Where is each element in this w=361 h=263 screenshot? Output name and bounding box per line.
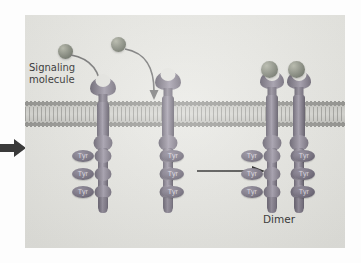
signaling-molecule-label: Signaling molecule — [29, 62, 75, 86]
tyr-residue: Tyr — [162, 168, 184, 180]
tyr-residue: Tyr — [293, 150, 315, 162]
dimer-label: Dimer — [263, 213, 295, 225]
figure-canvas: Tyr Tyr Tyr Tyr Tyr Tyr — [0, 0, 361, 263]
signaling-molecule-label-line2: molecule — [29, 74, 75, 86]
receptor-4-c-terminal-tail — [295, 197, 304, 213]
tyr-residue: Tyr — [293, 186, 315, 198]
receptor-1-c-terminal-tail — [99, 197, 108, 213]
tyr-residue: Tyr — [162, 186, 184, 198]
receptor-1-transmembrane-domain — [97, 102, 109, 138]
receptor-4-transmembrane-domain — [293, 95, 305, 138]
tyr-residue: Tyr — [72, 168, 94, 180]
tyr-residue: Tyr — [241, 186, 263, 198]
receptor-1-lobe-2 — [95, 167, 112, 181]
tyr-residue: Tyr — [293, 168, 315, 180]
tyr-residue: Tyr — [72, 186, 94, 198]
signaling-molecule-label-line1: Signaling — [29, 62, 75, 74]
tyr-residue: Tyr — [162, 150, 184, 162]
receptor-1: Tyr Tyr Tyr — [88, 15, 118, 215]
signaling-molecule-4-bound — [288, 61, 305, 78]
receptor-2: Tyr Tyr Tyr — [153, 15, 183, 215]
entry-arrow — [0, 138, 28, 158]
tyr-residue: Tyr — [241, 150, 263, 162]
illustration-panel: Tyr Tyr Tyr Tyr Tyr Tyr — [25, 15, 345, 248]
receptor-4: Tyr Tyr Tyr — [284, 15, 314, 215]
receptor-3: Tyr Tyr Tyr — [257, 15, 287, 215]
receptor-3-lobe-1 — [264, 149, 281, 163]
tyr-residue: Tyr — [241, 168, 263, 180]
receptor-1-lobe-1 — [95, 149, 112, 163]
receptor-3-c-terminal-tail — [268, 197, 277, 213]
receptor-3-transmembrane-domain — [266, 95, 278, 138]
tyr-residue: Tyr — [72, 150, 94, 162]
receptor-2-c-terminal-tail — [164, 197, 173, 213]
signaling-molecule-3-bound — [261, 61, 278, 78]
receptor-2-transmembrane-domain — [162, 96, 174, 138]
receptor-3-lobe-2 — [264, 167, 281, 181]
